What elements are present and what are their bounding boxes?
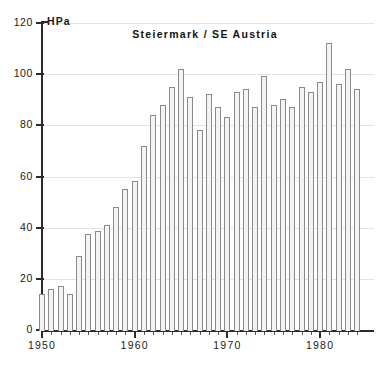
bar-1978 xyxy=(299,87,305,331)
x-tick-label-1960: 1960 xyxy=(121,339,149,351)
bar-1981 xyxy=(326,43,332,331)
x-tick-minor-1983 xyxy=(348,332,349,335)
x-tick-minor-1963 xyxy=(163,332,164,335)
x-tick-minor-1952 xyxy=(61,332,62,335)
x-tick-minor-1971 xyxy=(237,332,238,335)
x-tick-minor-1951 xyxy=(51,332,52,335)
bar-1963 xyxy=(160,105,166,331)
bar-1959 xyxy=(122,189,128,331)
bar-1984 xyxy=(354,89,360,331)
bar-1965 xyxy=(178,69,184,331)
bar-1977 xyxy=(289,107,295,331)
bar-1966 xyxy=(187,97,193,331)
bar-1974 xyxy=(261,76,267,331)
bars-layer xyxy=(0,23,384,331)
bar-1967 xyxy=(197,130,203,331)
x-tick-minor-1968 xyxy=(209,332,210,335)
x-tick-minor-1982 xyxy=(339,332,340,335)
x-tick-minor-1958 xyxy=(116,332,117,335)
x-tick-minor-1953 xyxy=(70,332,71,335)
figure-caption xyxy=(8,358,378,370)
bar-1971 xyxy=(234,92,240,331)
x-tick-minor-1972 xyxy=(246,332,247,335)
bar-1982 xyxy=(336,84,342,331)
bar-1962 xyxy=(150,115,156,331)
x-tick-minor-1962 xyxy=(153,332,154,335)
x-tick-minor-1956 xyxy=(98,332,99,335)
x-tick-label-1950: 1950 xyxy=(28,339,56,351)
bar-1955 xyxy=(85,234,91,331)
x-tick-minor-1976 xyxy=(283,332,284,335)
bar-1964 xyxy=(169,87,175,331)
x-tick-minor-1966 xyxy=(190,332,191,335)
x-tick-minor-1978 xyxy=(302,332,303,335)
x-tick-1980 xyxy=(319,332,321,338)
bar-1950 xyxy=(39,294,45,331)
x-tick-minor-1977 xyxy=(292,332,293,335)
bar-1975 xyxy=(271,105,277,331)
x-tick-minor-1959 xyxy=(125,332,126,335)
x-tick-1960 xyxy=(134,332,136,338)
x-tick-minor-1954 xyxy=(79,332,80,335)
x-tick-minor-1974 xyxy=(264,332,265,335)
x-tick-minor-1984 xyxy=(357,332,358,335)
bar-1979 xyxy=(308,92,314,331)
x-tick-minor-1975 xyxy=(274,332,275,335)
bar-1954 xyxy=(76,256,82,331)
bar-1956 xyxy=(95,231,101,331)
x-tick-minor-1981 xyxy=(329,332,330,335)
x-tick-minor-1961 xyxy=(144,332,145,335)
bar-1953 xyxy=(67,294,73,331)
x-tick-1970 xyxy=(226,332,228,338)
x-tick-minor-1955 xyxy=(88,332,89,335)
x-tick-minor-1969 xyxy=(218,332,219,335)
x-tick-minor-1973 xyxy=(255,332,256,335)
bar-1983 xyxy=(345,69,351,331)
bar-1961 xyxy=(141,146,147,331)
bar-1951 xyxy=(48,289,54,331)
bar-1980 xyxy=(317,82,323,331)
bar-1976 xyxy=(280,99,286,331)
x-tick-minor-1965 xyxy=(181,332,182,335)
x-tick-minor-1957 xyxy=(107,332,108,335)
x-tick-1950 xyxy=(41,332,43,338)
x-tick-minor-1964 xyxy=(172,332,173,335)
chart-figure: 020406080100120 HPa Steiermark / SE Aust… xyxy=(0,0,384,373)
bar-1958 xyxy=(113,207,119,331)
bar-1960 xyxy=(132,181,138,331)
x-tick-label-1970: 1970 xyxy=(213,339,241,351)
x-tick-label-1980: 1980 xyxy=(306,339,334,351)
bar-1952 xyxy=(58,286,64,331)
x-tick-minor-1979 xyxy=(311,332,312,335)
bar-1957 xyxy=(104,225,110,331)
x-tick-minor-1967 xyxy=(200,332,201,335)
bar-1972 xyxy=(243,89,249,331)
bar-1969 xyxy=(215,107,221,331)
bar-1968 xyxy=(206,94,212,331)
bar-1970 xyxy=(224,117,230,331)
bar-1973 xyxy=(252,107,258,331)
